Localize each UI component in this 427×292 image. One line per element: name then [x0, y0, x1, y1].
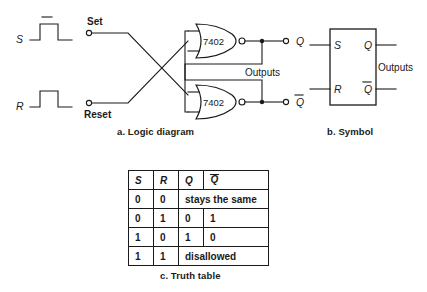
label-r-input: R [16, 100, 24, 112]
label-symbol-qbar: Q [363, 82, 372, 95]
cell-merged-row1: stays the same [179, 190, 269, 209]
cell-q-row3: 1 [179, 228, 204, 247]
label-outputs-logic: Outputs [245, 67, 280, 78]
cell-s-row4: 1 [129, 247, 154, 266]
caption-symbol: b. Symbol [327, 126, 373, 137]
caption-logic-diagram: a. Logic diagram [117, 126, 194, 137]
label-gate-lower: 7402 [203, 97, 224, 108]
header-qbar-text: Q [210, 174, 219, 186]
header-cell-r: R [154, 171, 179, 190]
cell-merged-row4: disallowed [179, 247, 269, 266]
cell-qbar-row3: 0 [204, 228, 269, 247]
label-symbol-r: R [334, 83, 342, 95]
cell-s-row2: 0 [129, 209, 154, 228]
waveform-s [30, 17, 72, 40]
label-outputs-symbol: Outputs [378, 62, 413, 73]
cell-r-row2: 1 [154, 209, 179, 228]
label-reset: Reset [84, 109, 112, 120]
panel-logic-diagram: S R Set Reset [16, 16, 304, 120]
panel-symbol: S R Q Q Outputs [310, 29, 413, 105]
svg-text:Q: Q [364, 83, 372, 95]
crossing-wires [92, 33, 188, 103]
waveform-r [30, 91, 72, 107]
cell-r-row3: 0 [154, 228, 179, 247]
label-set: Set [87, 16, 103, 27]
output-q-net [245, 38, 289, 43]
table-header-row: S R Q Q [129, 171, 269, 190]
cell-r-row1: 0 [154, 190, 179, 209]
header-cell-s: S [129, 171, 154, 190]
caption-truth-table: c. Truth table [160, 270, 221, 281]
label-qbar-output: Q [295, 95, 304, 108]
table-row: 1 1 disallowed [129, 247, 269, 266]
figure-root: S R Set Reset [0, 0, 427, 292]
terminal-q[interactable] [283, 38, 288, 43]
label-s-input: S [16, 33, 23, 45]
label-q-output: Q [296, 35, 304, 47]
terminal-reset[interactable] [86, 100, 91, 105]
svg-text:Q: Q [296, 96, 304, 108]
header-cell-q: Q [179, 171, 204, 190]
cell-qbar-row2: 1 [204, 209, 269, 228]
table-row: 1 0 1 0 [129, 228, 269, 247]
table-row: 0 0 stays the same [129, 190, 269, 209]
header-cell-qbar: Q [204, 171, 269, 190]
cell-q-row2: 0 [179, 209, 204, 228]
terminal-qbar[interactable] [283, 99, 288, 104]
label-gate-upper: 7402 [203, 36, 224, 47]
cell-s-row3: 1 [129, 228, 154, 247]
cell-r-row4: 1 [154, 247, 179, 266]
output-qbar-net [245, 99, 289, 104]
cell-s-row1: 0 [129, 190, 154, 209]
label-symbol-q: Q [364, 39, 372, 51]
table-row: 0 1 0 1 [129, 209, 269, 228]
truth-table: S R Q Q 0 0 stays the same 0 1 0 1 1 0 1… [128, 170, 269, 266]
terminal-set[interactable] [86, 30, 91, 35]
label-symbol-s: S [334, 39, 341, 51]
